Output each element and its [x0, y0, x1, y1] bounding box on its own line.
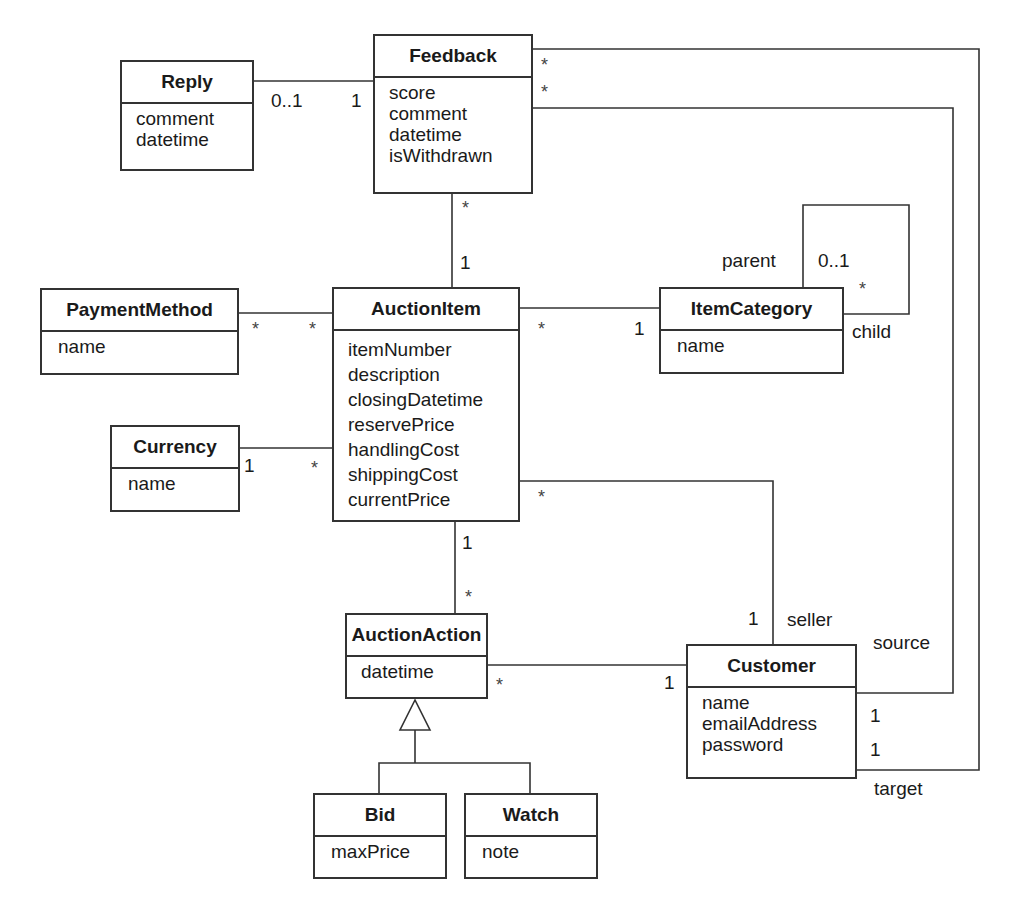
attribute: comment: [136, 108, 252, 129]
multiplicity-label: 1: [462, 533, 473, 552]
class-auction-action: AuctionAction datetime: [345, 613, 488, 699]
attribute: shippingCost: [348, 462, 518, 487]
multiplicity-label: 0..1: [271, 91, 303, 110]
multiplicity-label: 1: [351, 91, 362, 110]
multiplicity-label: *: [462, 199, 469, 217]
multiplicity-label: 1: [748, 609, 759, 628]
class-auction-item: AuctionItem itemNumber description closi…: [332, 287, 520, 522]
multiplicity-label: 1: [664, 673, 675, 692]
attribute: handlingCost: [348, 437, 518, 462]
attribute: currentPrice: [348, 487, 518, 512]
role-label-parent: parent: [722, 251, 776, 270]
class-feedback: Feedback score comment datetime isWithdr…: [373, 34, 533, 194]
multiplicity-label: 1: [244, 456, 255, 475]
multiplicity-label: *: [311, 459, 318, 477]
class-name: Feedback: [375, 36, 531, 78]
class-name: ItemCategory: [661, 289, 842, 331]
multiplicity-label: 1: [870, 706, 881, 725]
multiplicity-label: 1: [634, 319, 645, 338]
attribute: closingDatetime: [348, 387, 518, 412]
attribute: emailAddress: [702, 713, 855, 734]
attribute: name: [58, 336, 237, 357]
class-name: Reply: [122, 62, 252, 104]
multiplicity-label: *: [541, 83, 548, 101]
class-name: AuctionAction: [347, 615, 486, 657]
attribute: datetime: [361, 661, 486, 682]
class-name: Currency: [112, 427, 238, 469]
class-name: Customer: [688, 646, 855, 688]
attribute: isWithdrawn: [389, 145, 531, 166]
generalization-triangle-icon: [400, 700, 430, 730]
attribute: description: [348, 362, 518, 387]
attribute: name: [702, 692, 855, 713]
multiplicity-label: 1: [460, 253, 471, 272]
attribute: maxPrice: [331, 841, 445, 862]
multiplicity-label: *: [252, 320, 259, 338]
multiplicity-label: *: [538, 488, 545, 506]
attribute: reservePrice: [348, 412, 518, 437]
class-name: AuctionItem: [334, 289, 518, 331]
class-name: PaymentMethod: [42, 290, 237, 332]
role-label-source: source: [873, 633, 930, 652]
role-label-seller: seller: [787, 610, 832, 629]
multiplicity-label: *: [538, 320, 545, 338]
class-watch: Watch note: [464, 793, 598, 879]
multiplicity-label: *: [541, 56, 548, 74]
attribute: score: [389, 82, 531, 103]
class-name: Watch: [466, 795, 596, 837]
attribute: name: [128, 473, 238, 494]
role-label-child: child: [852, 322, 891, 341]
uml-class-diagram: Reply comment datetime Feedback score co…: [0, 0, 1020, 910]
attribute: datetime: [136, 129, 252, 150]
multiplicity-label: *: [309, 320, 316, 338]
class-customer: Customer name emailAddress password: [686, 644, 857, 779]
attribute: name: [677, 335, 842, 356]
multiplicity-label: 0..1: [818, 251, 850, 270]
role-label-target: target: [874, 779, 923, 798]
multiplicity-label: *: [496, 676, 503, 694]
attribute: note: [482, 841, 596, 862]
class-item-category: ItemCategory name: [659, 287, 844, 374]
attribute: password: [702, 734, 855, 755]
class-reply: Reply comment datetime: [120, 60, 254, 171]
class-name: Bid: [315, 795, 445, 837]
multiplicity-label: 1: [870, 740, 881, 759]
attribute: itemNumber: [348, 337, 518, 362]
multiplicity-label: *: [859, 280, 866, 298]
attribute: datetime: [389, 124, 531, 145]
attribute: comment: [389, 103, 531, 124]
class-payment-method: PaymentMethod name: [40, 288, 239, 375]
class-currency: Currency name: [110, 425, 240, 512]
class-bid: Bid maxPrice: [313, 793, 447, 879]
multiplicity-label: *: [465, 588, 472, 606]
